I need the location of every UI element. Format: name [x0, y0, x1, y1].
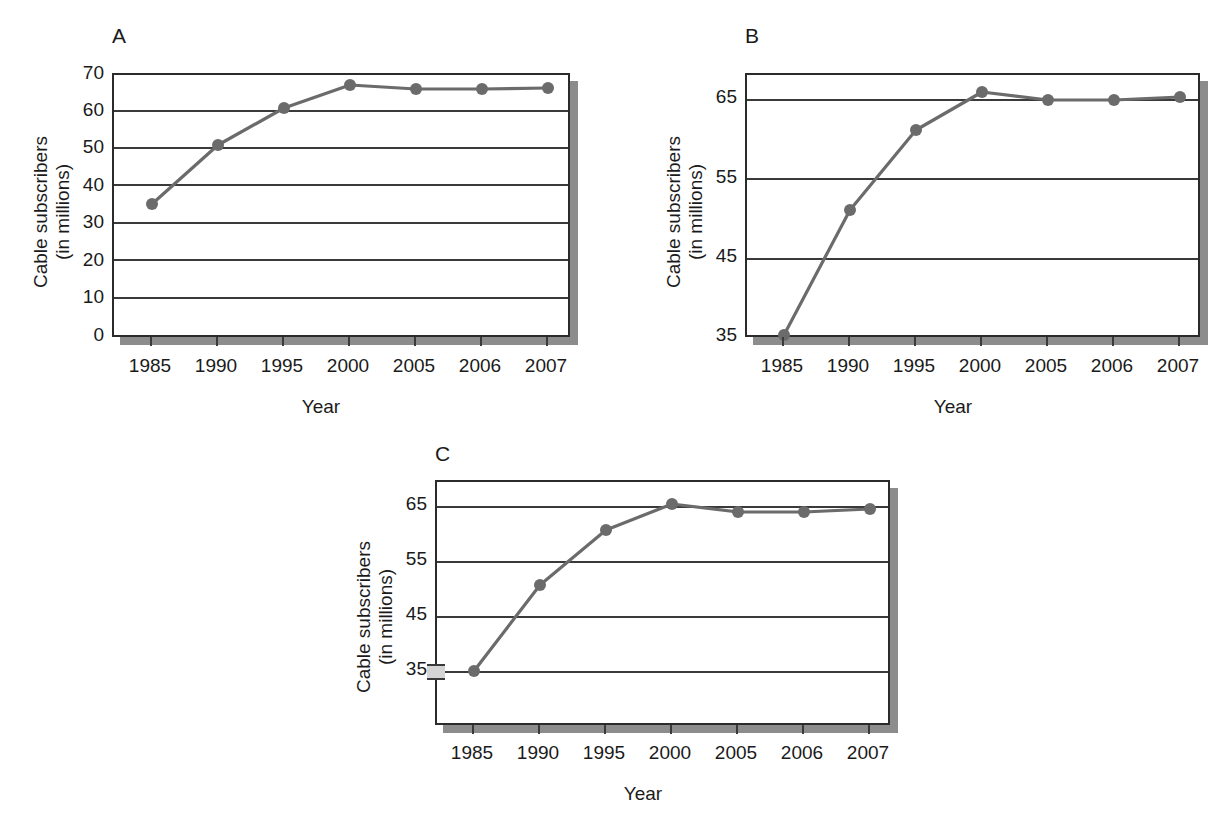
panel-a-plot-area: [112, 73, 570, 337]
panel-a-ytick-label-10: 10: [52, 286, 104, 308]
panel-b-ytick-label-55: 55: [685, 166, 737, 188]
panel-a-ytick-label-20: 20: [52, 249, 104, 271]
panel-c-ytick-label-55: 55: [375, 548, 427, 570]
panel-a-ytick-label-40: 40: [52, 174, 104, 196]
panel-b: B Cable subscribers (in millions) 65 55 …: [612, 0, 1225, 420]
panel-b-xtick-1990: [848, 337, 850, 346]
panel-b-y-axis-title: Cable subscribers (in millions): [663, 87, 707, 337]
panel-a-x-axis-title: Year: [261, 396, 381, 418]
panel-c-letter: C: [435, 442, 451, 466]
panel-c-xtick-2000: [670, 725, 672, 734]
panel-b-xtick-2000: [980, 337, 982, 346]
panel-a-xtick-2000: [348, 337, 350, 346]
panel-a-ytick-label-30: 30: [52, 211, 104, 233]
panel-b-ytick-label-45: 45: [685, 245, 737, 267]
panel-a-series-line: [114, 75, 572, 339]
panel-b-letter: B: [745, 24, 760, 48]
panel-c-xtick-1995: [604, 725, 606, 734]
panel-c-plot-area: [435, 480, 890, 725]
panel-a-xtick-1995: [282, 337, 284, 346]
panel-c-xtick-label-2007: 2007: [828, 742, 908, 764]
panel-b-xtick-1995: [914, 337, 916, 346]
panel-a-xtick-label-2007: 2007: [506, 355, 586, 377]
panel-b-plot-area: [745, 73, 1200, 337]
panel-c: C Cable subscribers (in millions) 65 55 …: [305, 420, 945, 835]
panel-c-ytick-label-65: 65: [375, 493, 427, 515]
panel-a-xtick-1990: [216, 337, 218, 346]
panel-c-xtick-2005: [736, 725, 738, 734]
panel-a-ytick-label-0: 0: [52, 324, 104, 346]
panel-a-y-axis-title-line1: Cable subscribers: [30, 87, 52, 337]
panel-a-ytick-label-60: 60: [52, 99, 104, 121]
panel-a-ytick-label-70: 70: [52, 62, 104, 84]
panel-c-ytick-label-35: 35: [375, 658, 427, 680]
panel-b-y-axis-title-line2: (in millions): [685, 87, 707, 337]
panel-c-ytick-label-45: 45: [375, 603, 427, 625]
panel-c-xtick-2007: [868, 725, 870, 734]
panel-a-xtick-1985: [150, 337, 152, 346]
panel-a-letter: A: [112, 24, 127, 48]
panel-b-y-axis-title-line1: Cable subscribers: [663, 87, 685, 337]
panel-b-series-line: [747, 75, 1202, 339]
panel-c-y-axis-break-icon: [427, 664, 445, 680]
panel-c-series-line: [437, 482, 892, 727]
panel-b-ytick-label-35: 35: [685, 324, 737, 346]
panel-c-x-axis-title: Year: [583, 783, 703, 805]
panel-c-xtick-1985: [472, 725, 474, 734]
panel-b-ytick-label-65: 65: [685, 86, 737, 108]
panel-a: A Cable subscribers (in millions) 70 60 …: [0, 0, 600, 420]
panel-c-xtick-1990: [538, 725, 540, 734]
panel-a-xtick-2005: [414, 337, 416, 346]
panel-a-xtick-2007: [546, 337, 548, 346]
panel-c-y-axis-title-line1: Cable subscribers: [353, 492, 375, 742]
panel-a-xtick-2006: [480, 337, 482, 346]
panel-c-axis-break-bar-top: [427, 664, 445, 666]
panel-b-xtick-2005: [1046, 337, 1048, 346]
panel-b-xtick-2006: [1112, 337, 1114, 346]
panel-b-x-axis-title: Year: [893, 396, 1013, 418]
panel-b-xtick-2007: [1178, 337, 1180, 346]
panel-c-xtick-2006: [802, 725, 804, 734]
panel-b-xtick-1985: [782, 337, 784, 346]
panel-b-xtick-label-2007: 2007: [1138, 355, 1218, 377]
panel-a-ytick-label-50: 50: [52, 136, 104, 158]
panel-c-axis-break-bar-bottom: [427, 678, 445, 680]
